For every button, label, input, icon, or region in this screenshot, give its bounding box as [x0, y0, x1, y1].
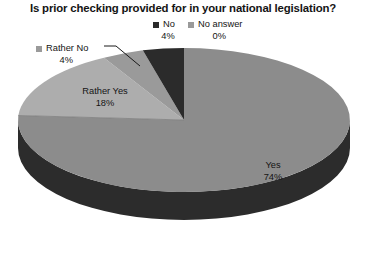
- pie-chart-graphic: [0, 0, 366, 263]
- label-rather-yes: Rather Yes 18%: [63, 86, 147, 109]
- label-no-value: 4%: [153, 31, 175, 43]
- pie-chart: Is prior checking provided for in your n…: [0, 0, 366, 263]
- legend-swatch-rather-no: [36, 46, 42, 52]
- label-rather-no-text: Rather No: [46, 43, 88, 55]
- legend-swatch-no: [153, 22, 159, 28]
- label-yes-text: Yes: [246, 160, 300, 172]
- legend-swatch-no-answer: [188, 22, 194, 28]
- label-yes-value: 74%: [246, 172, 300, 184]
- label-no: No 4%: [153, 19, 175, 42]
- label-rather-yes-text: Rather Yes: [63, 86, 147, 98]
- label-yes: Yes 74%: [246, 160, 300, 183]
- label-no-answer-text: No answer: [198, 19, 242, 31]
- label-no-text: No: [163, 19, 175, 31]
- label-no-answer: No answer 0%: [188, 19, 242, 42]
- label-no-answer-value: 0%: [188, 31, 242, 43]
- label-rather-no-value: 4%: [36, 55, 88, 67]
- label-rather-yes-value: 18%: [63, 98, 147, 110]
- label-rather-no: Rather No 4%: [36, 43, 88, 66]
